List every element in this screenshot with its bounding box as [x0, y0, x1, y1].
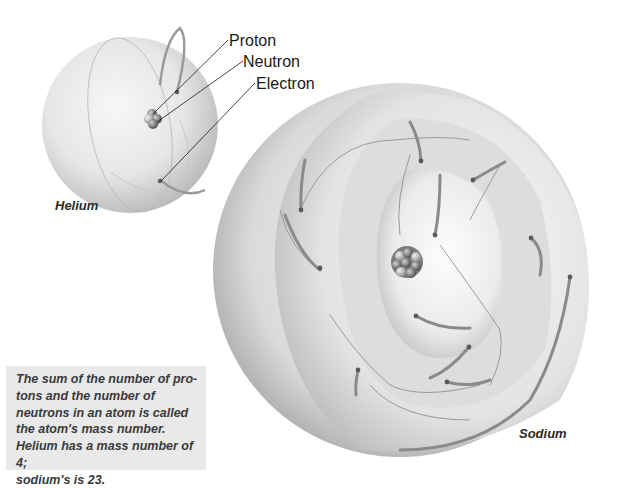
helium-atom	[42, 28, 218, 219]
mass-number-caption: The sum of the number of pro- tons and t…	[16, 371, 206, 488]
neutron-label: Neutron	[243, 54, 300, 70]
electron-label: Electron	[256, 76, 315, 92]
proton-label: Proton	[229, 33, 276, 49]
mass-number-caption-box: The sum of the number of pro- tons and t…	[6, 366, 206, 470]
sodium-atom	[213, 83, 589, 457]
sodium-label: Sodium	[519, 426, 567, 441]
helium-label: Helium	[55, 198, 98, 213]
sodium-nucleus	[391, 246, 423, 278]
